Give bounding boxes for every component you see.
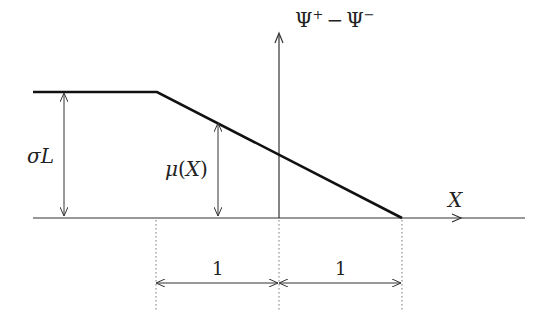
diagram-canvas: Ψ+−Ψ− X σL μ(X) 1 1 <box>0 0 545 332</box>
interval-label-left: 1 <box>212 258 223 279</box>
horizontal-axis-label: X <box>446 188 463 212</box>
sigma-l-label: σL <box>27 144 54 168</box>
mu-label: μ(X) <box>165 157 208 181</box>
vertical-axis-label: Ψ+−Ψ− <box>295 7 375 32</box>
interval-label-right: 1 <box>335 258 346 279</box>
